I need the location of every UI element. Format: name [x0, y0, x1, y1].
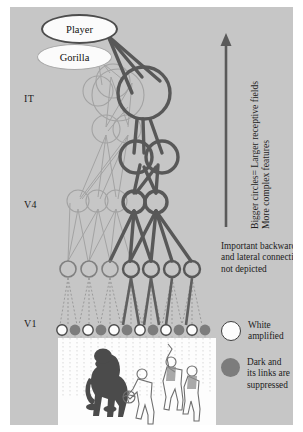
legend-dark-line3: suppressed — [247, 380, 293, 391]
layer-label-it: IT — [24, 93, 34, 104]
category-label-player: Player — [66, 24, 93, 35]
category-label-gorilla: Gorilla — [60, 52, 90, 63]
layer-label-v1: V1 — [24, 318, 37, 329]
arrow-caption-prefix: Bigger circles= — [249, 170, 260, 229]
legend-dark-line1: Dark and — [247, 357, 293, 368]
category-node-player[interactable]: Player — [41, 14, 118, 44]
legend-white-line1: White — [248, 320, 293, 331]
arrow-caption-text1: Larger receptive fields — [249, 81, 260, 168]
arrow-caption-line2: More complex features — [260, 140, 271, 229]
figure-root: IT V4 V1 Gorilla Player Bigger circles= … — [0, 0, 303, 432]
amplified-descenders — [123, 278, 192, 325]
legend-item-dark: Dark and its links are suppressed — [221, 357, 293, 391]
legend-text-white: White amplified — [248, 320, 293, 343]
category-node-gorilla[interactable]: Gorilla — [37, 44, 112, 70]
layer-v1-nodes — [57, 325, 211, 336]
white-circle-icon — [221, 321, 241, 341]
legend-note: Important backward and lateral connectio… — [221, 241, 293, 275]
suppressed-edges — [68, 57, 132, 261]
legend-white-line2: amplified — [248, 331, 293, 342]
layer-row4 — [60, 261, 200, 277]
legend-dark-line2: its links are — [247, 368, 293, 379]
arrow-caption-line1: Bigger circles= Larger receptive fields — [249, 81, 260, 229]
stimulus-photo — [58, 338, 216, 425]
photo-content — [58, 338, 216, 425]
hierarchy-arrow-up-icon — [214, 29, 238, 229]
legend-item-white: White amplified — [221, 320, 293, 343]
legend-text-dark: Dark and its links are suppressed — [247, 357, 293, 391]
dark-circle-icon — [221, 358, 240, 377]
layer-label-v4: V4 — [24, 199, 37, 210]
figure-panel: IT V4 V1 Gorilla Player Bigger circles= … — [10, 7, 293, 425]
